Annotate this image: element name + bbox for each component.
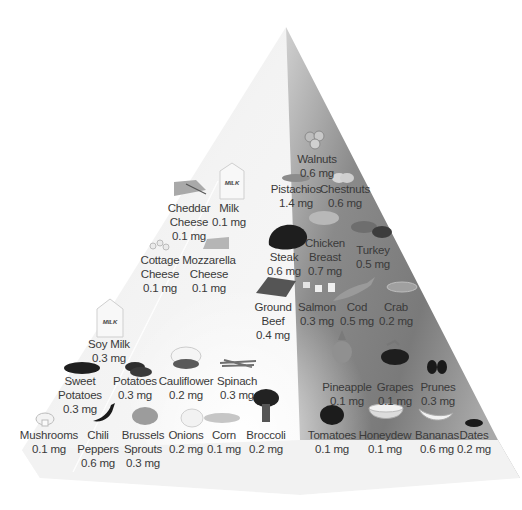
turkey-icon [350,219,394,239]
label-cottage-cheese: Cottage Cheese 0.1 mg [141,253,180,295]
food-name: Cottage [141,253,180,267]
food-value: 0.2 mg [246,442,285,456]
food-name: Bananas [415,428,459,442]
label-honeydew: Honeydew 0.1 mg [359,428,412,456]
banana-icon [417,405,455,425]
food-value: 0.1 mg [168,229,211,243]
food-value: 0.1 mg [377,394,414,408]
label-soy-milk: Soy Milk 0.3 mg [88,337,130,365]
food-name: Soy Milk [88,337,130,351]
label-ground-beef: Ground Beef 0.4 mg [254,300,291,342]
food-name: Onions [168,428,203,442]
food-value: 0.1 mg [182,281,236,295]
food-name: Tomatoes [308,428,356,442]
label-mushrooms: Mushrooms 0.1 mg [20,428,78,456]
food-name: Broccoli [246,428,285,442]
food-name: Chestnuts [320,182,370,196]
label-onions: Onions 0.2 mg [168,428,203,456]
food-value: 0.6 mg [267,264,301,278]
food-name: Cod [340,300,374,314]
food-value: 0.1 mg [207,442,241,456]
food-name: Potatoes [113,374,157,388]
food-name: Sweet [58,374,102,388]
label-pistachios: Pistachios 1.4 mg [271,182,321,210]
ground-beef-icon [254,275,298,299]
food-value: 0.2 mg [159,388,214,402]
food-name: Chicken [305,236,345,250]
label-dates: Dates 0.2 mg [457,428,491,456]
chicken-icon [307,209,341,227]
grapes-icon [377,339,411,367]
food-value: 0.2 mg [168,442,203,456]
food-value: 0.3 mg [420,394,455,408]
food-value: 0.5 mg [340,314,374,328]
food-name: Potatoes [58,388,102,402]
label-chicken-breast: Chicken Breast 0.7 mg [305,236,345,278]
food-value: 0.6 mg [320,196,370,210]
food-value: 0.2 mg [379,314,413,328]
spinach-icon [218,357,258,369]
walnut-icon [303,130,329,150]
food-name: Cheddar [168,201,211,215]
food-pyramid-diagram: MILK MILK [0,0,522,510]
milk-carton-icon: MILK [93,297,127,339]
label-prunes: Prunes 0.3 mg [420,380,455,408]
food-name: Cheese [168,215,211,229]
food-name: Salmon [298,300,336,314]
label-mozzarella-cheese: Mozzarella Cheese 0.1 mg [182,253,236,295]
food-name: Breast [305,250,345,264]
label-chestnuts: Chestnuts 0.6 mg [320,182,370,210]
food-name: Steak [267,250,301,264]
food-name: Walnuts [297,152,337,166]
food-value: 0.5 mg [356,257,390,271]
food-name: Ground [254,300,291,314]
food-value: 0.3 mg [88,351,130,365]
food-value: 0.2 mg [457,442,491,456]
food-name: Cheese [182,267,236,281]
label-tomatoes: Tomatoes 0.1 mg [308,428,356,456]
crab-icon [385,279,419,295]
food-value: 0.3 mg [298,314,336,328]
label-spinach: Spinach 0.3 mg [217,374,257,402]
label-cauliflower: Cauliflower 0.2 mg [159,374,214,402]
food-name: Pineapple [322,380,371,394]
food-value: 0.3 mg [113,388,157,402]
cauliflower-icon [169,346,203,370]
label-corn: Corn 0.1 mg [207,428,241,456]
label-chili-peppers: Chili Peppers 0.6 mg [77,428,118,470]
food-name: Chili [77,428,118,442]
food-value: 0.4 mg [254,328,291,342]
pineapple-icon [329,328,355,364]
food-value: 0.7 mg [305,264,345,278]
prunes-icon [425,359,449,375]
food-value: 0.6 mg [415,442,459,456]
food-name: Spinach [217,374,257,388]
food-name: Corn [207,428,241,442]
corn-icon [202,411,242,425]
svg-text:MILK: MILK [103,319,118,325]
food-name: Grapes [377,380,414,394]
label-broccoli: Broccoli 0.2 mg [246,428,285,456]
label-bananas: Bananas 0.6 mg [415,428,459,456]
food-value: 0.3 mg [217,388,257,402]
food-name: Milk [212,201,246,215]
food-value: 0.1 mg [322,394,371,408]
food-value: 0.6 mg [297,166,337,180]
food-value: 0.1 mg [141,281,180,295]
food-name: Brussels [122,428,165,442]
dates-icon [464,418,484,428]
brussels-sprouts-icon [130,405,160,427]
food-value: 0.1 mg [212,215,246,229]
label-sweet-potatoes: Sweet Potatoes 0.3 mg [58,374,102,416]
food-name: Peppers [77,442,118,456]
label-steak: Steak 0.6 mg [267,250,301,278]
cheese-wedge-icon [172,178,208,198]
food-value: 0.1 mg [359,442,412,456]
label-brussels-sprouts: Brussels Sprouts 0.3 mg [122,428,165,470]
food-name: Mozzarella [182,253,236,267]
label-pineapple: Pineapple 0.1 mg [322,380,371,408]
food-value: 1.4 mg [271,196,321,210]
food-value: 0.1 mg [20,442,78,456]
food-value: 0.6 mg [77,456,118,470]
label-milk: Milk 0.1 mg [212,201,246,229]
